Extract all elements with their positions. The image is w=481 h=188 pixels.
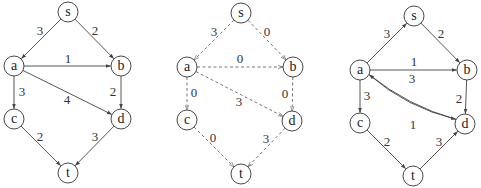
network-flow-diagrams: 32143223sabcdt30030003sabcdt321313223sab… <box>0 0 481 188</box>
edge-b-d <box>465 80 466 114</box>
edge-label-c-t: 2 <box>384 134 391 149</box>
node-label-c: c <box>357 115 363 130</box>
edge-label-a-c: 3 <box>19 84 26 99</box>
edge-label-a-d: 3 <box>236 94 243 109</box>
edge-label-a-c: 0 <box>191 85 198 100</box>
edge-label-a-s: 3 <box>384 26 391 41</box>
edge-label-b-d: 2 <box>110 84 117 99</box>
node-label-s: s <box>411 8 416 23</box>
residual-network: 321313223sabcdt <box>350 6 477 186</box>
edge-label-d-t: 3 <box>263 131 270 146</box>
node-label-t: t <box>411 168 415 183</box>
edge-label-d-t: 3 <box>92 129 99 144</box>
node-label-s: s <box>65 4 70 19</box>
node-label-t: t <box>66 165 70 180</box>
node-label-c: c <box>11 111 17 126</box>
edge-label-a-b: 1 <box>65 51 72 66</box>
edge-label-s-b: 0 <box>264 24 271 39</box>
edge-label-a-d: 4 <box>64 92 71 107</box>
edge-label-t-d: 3 <box>436 134 443 149</box>
edge-label-a-c: 3 <box>364 88 371 103</box>
edge-label-d-a: 3 <box>409 71 416 86</box>
node-label-b: b <box>290 59 297 74</box>
node-label-a: a <box>357 62 364 77</box>
edge-label-c-t: 0 <box>210 130 217 145</box>
node-label-d: d <box>118 111 125 126</box>
node-label-b: b <box>464 62 471 77</box>
original-network: 32143223sabcdt <box>4 2 131 183</box>
node-label-d: d <box>462 116 469 131</box>
node-label-a: a <box>11 58 18 73</box>
edge-label-c-t: 2 <box>37 129 44 144</box>
node-label-d: d <box>289 113 296 128</box>
edge-label-s-b: 2 <box>92 23 99 38</box>
node-label-a: a <box>184 59 191 74</box>
edge-label-s-a: 3 <box>211 24 218 39</box>
graphs-layer: 32143223sabcdt30030003sabcdt321313223sab… <box>4 2 477 186</box>
edge-label-b-d: 2 <box>456 91 463 106</box>
flow-network: 30030003sabcdt <box>177 3 303 184</box>
edge-label-a-d: 1 <box>410 117 417 132</box>
edge-label-a-b: 0 <box>237 51 244 66</box>
node-label-s: s <box>238 5 243 20</box>
edge-label-a-b: 1 <box>411 54 418 69</box>
edge-label-s-b: 2 <box>438 26 445 41</box>
node-label-b: b <box>118 58 125 73</box>
edge-label-b-d: 0 <box>282 86 289 101</box>
node-label-c: c <box>184 112 190 127</box>
edge-label-s-a: 3 <box>37 23 44 38</box>
node-label-t: t <box>239 166 243 181</box>
edge-b-d <box>292 77 293 111</box>
